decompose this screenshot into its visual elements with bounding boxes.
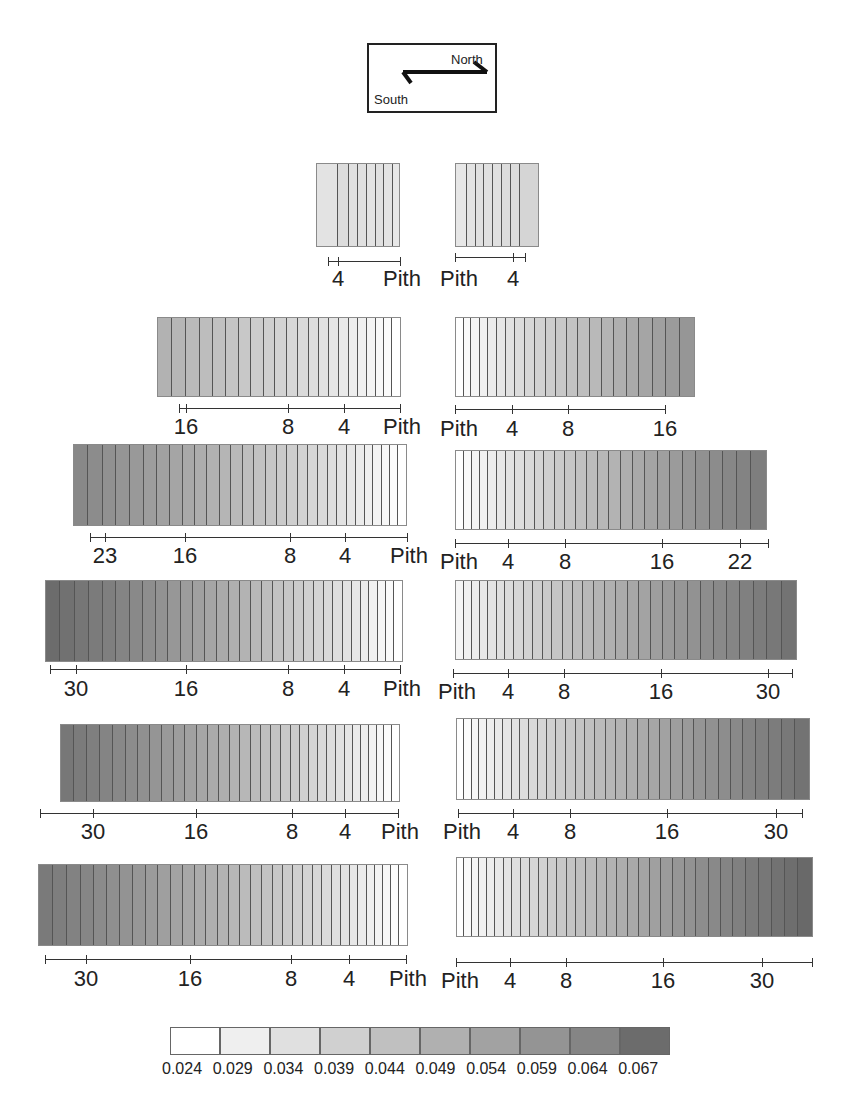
growth-ring <box>488 581 497 659</box>
ring-number-label: 8 <box>284 545 296 567</box>
growth-ring <box>350 865 359 945</box>
axis-end-tick <box>45 955 46 964</box>
growth-ring <box>394 581 402 661</box>
growth-ring <box>262 581 273 661</box>
growth-ring <box>229 581 240 661</box>
growth-ring <box>639 581 651 659</box>
growth-ring <box>714 581 727 659</box>
axis-tick <box>186 665 187 674</box>
growth-ring <box>339 318 349 396</box>
ring-number-label: 8 <box>282 678 294 700</box>
legend-value: 0.024 <box>162 1060 213 1078</box>
legend-swatch <box>320 1027 370 1055</box>
growth-ring <box>661 858 672 936</box>
growth-ring <box>782 581 796 659</box>
growth-ring <box>369 581 377 661</box>
growth-ring <box>680 318 694 396</box>
growth-ring <box>751 451 765 529</box>
axis-tick <box>344 665 345 674</box>
growth-ring <box>327 725 336 801</box>
legend-swatch <box>570 1027 620 1055</box>
growth-ring <box>74 445 88 525</box>
growth-ring <box>318 725 327 801</box>
ring-number-label: 4 <box>502 681 514 703</box>
growth-ring <box>650 858 661 936</box>
growth-ring <box>576 858 586 936</box>
axis-tick <box>566 958 567 967</box>
growth-ring <box>144 445 157 525</box>
axis-tick <box>93 809 94 818</box>
growth-ring <box>506 451 515 529</box>
axis-tick <box>398 809 399 818</box>
growth-ring <box>464 451 472 529</box>
pith-label: Pith <box>389 968 427 990</box>
growth-ring <box>495 858 503 936</box>
growth-ring <box>113 725 126 801</box>
growth-ring <box>378 581 386 661</box>
growth-ring <box>195 445 207 525</box>
pith-label: Pith <box>383 678 421 700</box>
growth-ring <box>46 581 60 661</box>
growth-ring <box>138 725 150 801</box>
growth-ring <box>597 858 607 936</box>
growth-ring <box>621 451 633 529</box>
axis-tick <box>662 539 663 548</box>
ring-number-label: 4 <box>338 416 350 438</box>
axis-end-tick <box>179 404 180 413</box>
growth-ring <box>231 445 243 525</box>
growth-ring <box>61 725 74 801</box>
axis-end-tick <box>90 533 91 542</box>
growth-ring <box>556 318 567 396</box>
growth-ring <box>464 719 471 799</box>
growth-ring <box>683 719 695 799</box>
ring-number-label: 8 <box>285 968 297 990</box>
growth-ring <box>243 445 254 525</box>
growth-ring <box>525 451 535 529</box>
growth-ring <box>358 865 367 945</box>
growth-ring <box>663 581 675 659</box>
ring-number-label: 16 <box>184 821 208 843</box>
axis-tick <box>290 533 291 542</box>
legend-swatch <box>520 1027 570 1055</box>
growth-ring <box>75 581 89 661</box>
south-ring-panel <box>38 864 408 946</box>
growth-ring <box>567 858 577 936</box>
ring-number-label: 4 <box>338 678 350 700</box>
growth-ring <box>336 725 345 801</box>
growth-ring <box>506 318 515 396</box>
growth-ring <box>126 725 138 801</box>
ring-axis <box>455 409 665 410</box>
legend-value: 0.039 <box>314 1060 365 1078</box>
ring-number-label: 4 <box>506 418 518 440</box>
south-ring-panel <box>73 444 407 526</box>
growth-ring <box>520 164 538 246</box>
growth-ring <box>205 581 217 661</box>
growth-ring <box>487 719 495 799</box>
axis-tick <box>86 955 87 964</box>
growth-ring <box>240 581 251 661</box>
axis-tick <box>185 533 186 542</box>
legend-value: 0.044 <box>365 1060 416 1078</box>
growth-ring <box>386 581 394 661</box>
growth-ring <box>390 445 398 525</box>
growth-ring <box>555 451 565 529</box>
growth-ring <box>356 445 365 525</box>
ring-number-label: 8 <box>286 821 298 843</box>
growth-ring <box>254 445 265 525</box>
axis-tick <box>196 809 197 818</box>
south-label: South <box>374 92 408 107</box>
pith-label: Pith <box>390 545 428 567</box>
growth-ring <box>493 164 502 246</box>
growth-ring <box>168 581 181 661</box>
growth-ring <box>515 451 524 529</box>
growth-ring <box>484 164 493 246</box>
pith-label: Pith <box>381 821 419 843</box>
growth-ring <box>487 858 495 936</box>
growth-ring <box>375 865 383 945</box>
growth-ring <box>81 865 94 945</box>
growth-ring <box>197 725 208 801</box>
growth-ring <box>627 318 640 396</box>
south-ring-panel <box>316 163 400 247</box>
north-ring-panel <box>455 317 695 397</box>
growth-ring <box>341 865 350 945</box>
